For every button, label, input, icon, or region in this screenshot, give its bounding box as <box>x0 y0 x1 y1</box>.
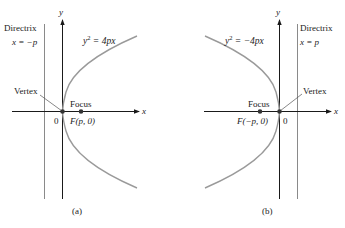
x-axis-label-b: x <box>333 106 338 116</box>
directrix-equation-b: x = p <box>299 37 320 47</box>
vertex-label-a: Vertex <box>14 86 38 96</box>
panel-b: y x Directrix x = p y2 = −4px Vertex Foc… <box>204 7 338 216</box>
focus-label-b: Focus <box>248 99 270 109</box>
directrix-title-a: Directrix <box>4 23 37 33</box>
vertex-leader-a <box>40 95 62 111</box>
panel-a: y x Directrix x = −p y2 = 4px Vertex Foc… <box>4 7 146 216</box>
equation-b: y2 = −4px <box>224 34 265 46</box>
x-axis-label-a: x <box>141 106 146 116</box>
vertex-leader-b <box>280 94 302 111</box>
vertex-point-a <box>60 109 65 114</box>
focus-coordinate-a: F(p, 0) <box>69 116 95 126</box>
focus-coordinate-b: F(−p, 0) <box>236 116 268 126</box>
equation-a: y2 = 4px <box>82 34 116 46</box>
focus-point-a <box>79 109 84 114</box>
caption-b: (b) <box>262 206 273 216</box>
focus-point-b <box>258 109 263 114</box>
caption-a: (a) <box>72 206 82 216</box>
parabola-diagram: y x Directrix x = −p y2 = 4px Vertex Foc… <box>0 0 345 228</box>
origin-label-a: 0 <box>54 116 59 126</box>
directrix-equation-a: x = −p <box>11 37 38 47</box>
vertex-label-b: Vertex <box>303 86 327 96</box>
vertex-point-b <box>277 109 282 114</box>
origin-label-b: 0 <box>283 116 288 126</box>
directrix-title-b: Directrix <box>300 23 333 33</box>
y-axis-label-a: y <box>58 7 63 17</box>
focus-label-a: Focus <box>70 99 92 109</box>
y-axis-label-b: y <box>275 7 280 17</box>
